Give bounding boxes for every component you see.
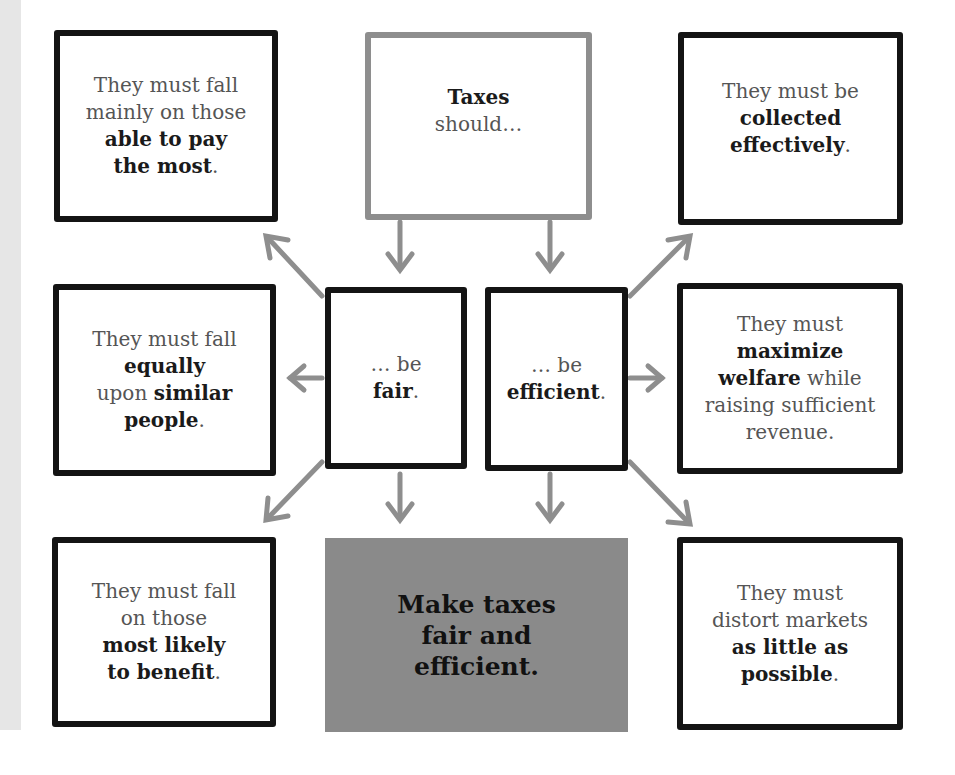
- branch-text: … be efficient.: [507, 352, 606, 406]
- arrow-efficient-to-welfare: [630, 366, 662, 390]
- conclusion-text: Make taxes fair and efficient.: [397, 589, 555, 682]
- criterion-text: They must be collected effectively.: [722, 78, 859, 159]
- arrow-root-to-efficient: [538, 222, 562, 270]
- arrow-root-to-fair: [388, 222, 412, 270]
- criterion-equal-treatment: They must fall equally upon similar peop…: [53, 284, 276, 476]
- criterion-minimal-distortion: They must distort markets as little as p…: [677, 537, 903, 730]
- branch-be-efficient: … be efficient.: [485, 287, 628, 471]
- criterion-text: They must fall on those most likely to b…: [92, 578, 236, 686]
- criterion-benefit-principle: They must fall on those most likely to b…: [52, 537, 276, 727]
- branch-text: … be fair.: [371, 351, 422, 405]
- criterion-maximize-welfare: They must maximize welfare while raising…: [677, 283, 903, 474]
- arrow-fair-to-equal: [290, 366, 322, 390]
- root-taxes-should: Taxes should…: [365, 32, 592, 220]
- arrow-efficient-to-conclusion: [538, 474, 562, 520]
- criterion-ability-to-pay: They must fall mainly on those able to p…: [54, 30, 278, 222]
- criterion-text: They must fall equally upon similar peop…: [92, 326, 236, 434]
- branch-be-fair: … be fair.: [325, 287, 467, 469]
- conclusion-box: Make taxes fair and efficient.: [325, 538, 628, 732]
- criterion-collected-effectively: They must be collected effectively.: [678, 32, 903, 225]
- root-text: Taxes should…: [435, 84, 522, 138]
- criterion-text: They must distort markets as little as p…: [712, 580, 868, 688]
- criterion-text: They must fall mainly on those able to p…: [86, 72, 247, 180]
- criterion-text: They must maximize welfare while raising…: [705, 311, 876, 446]
- arrow-fair-to-conclusion: [388, 474, 412, 520]
